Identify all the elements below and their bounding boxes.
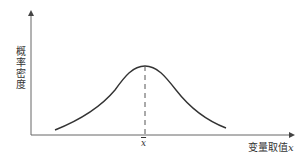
x-tick-mean: x [141,138,146,148]
x-axis-label: 变量取值x [248,139,294,154]
x-axis-label-text: 变量取值 [248,142,288,153]
y-axis-label: 概率密度 [13,46,25,90]
chart-plot [0,0,303,162]
x-axis-label-var: x [288,142,294,153]
density-curve [55,66,226,130]
